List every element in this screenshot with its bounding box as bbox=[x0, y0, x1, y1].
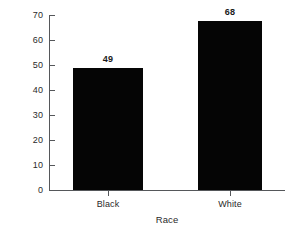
x-tick-white bbox=[230, 191, 231, 196]
y-tick-10 bbox=[50, 165, 55, 166]
bar-chart-figure: 5-Year Survival Rate per 100 0 10 20 30 … bbox=[0, 0, 293, 232]
y-tick-20 bbox=[50, 140, 55, 141]
x-tick-label-black: Black bbox=[68, 199, 148, 210]
y-tick-40 bbox=[50, 90, 55, 91]
x-tick-black bbox=[108, 191, 109, 196]
y-tick-label-70: 70 bbox=[13, 11, 43, 20]
y-tick-70 bbox=[50, 15, 55, 16]
y-tick-60 bbox=[50, 40, 55, 41]
y-tick-label-50: 50 bbox=[13, 61, 43, 70]
y-tick-label-40: 40 bbox=[13, 86, 43, 95]
y-tick-label-60: 60 bbox=[13, 36, 43, 45]
y-tick-label-30: 30 bbox=[13, 111, 43, 120]
x-tick-label-white: White bbox=[190, 199, 270, 210]
x-axis-title: Race bbox=[49, 214, 285, 226]
x-axis-line bbox=[49, 190, 285, 191]
y-tick-label-0: 0 bbox=[13, 186, 43, 195]
bar-white[interactable] bbox=[198, 21, 262, 190]
y-tick-label-20: 20 bbox=[13, 136, 43, 145]
bar-value-label-black: 49 bbox=[78, 55, 138, 64]
y-tick-30 bbox=[50, 115, 55, 116]
bar-value-label-white: 68 bbox=[200, 8, 260, 17]
y-tick-label-10: 10 bbox=[13, 161, 43, 170]
y-tick-0 bbox=[50, 190, 55, 191]
y-tick-50 bbox=[50, 65, 55, 66]
bar-black[interactable] bbox=[73, 68, 143, 190]
